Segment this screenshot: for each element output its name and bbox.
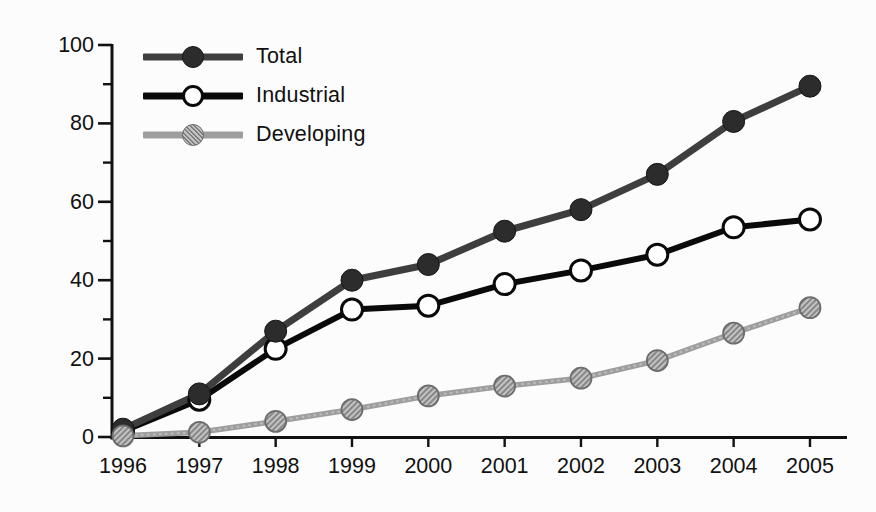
x-tick-label: 1998 [252, 454, 300, 478]
legend-item-developing: Developing [143, 115, 366, 154]
point-developing-1999 [341, 399, 362, 420]
point-industrial-2003 [647, 244, 668, 265]
point-industrial-2005 [799, 209, 820, 230]
point-industrial-2004 [723, 217, 744, 238]
legend-marker-industrial-icon [143, 83, 243, 109]
point-total-1999 [341, 269, 363, 291]
point-total-2005 [799, 75, 821, 97]
x-tick-label: 2004 [710, 454, 758, 478]
point-industrial-2002 [570, 260, 591, 281]
x-tick-label: 2005 [786, 454, 834, 478]
legend-label-developing: Developing [256, 122, 366, 147]
line-chart: 0204060801001996199719981999200020012002… [0, 0, 876, 512]
point-total-2000 [417, 254, 439, 276]
point-developing-1996 [113, 425, 134, 446]
point-total-2001 [494, 220, 516, 242]
point-total-1998 [265, 320, 287, 342]
point-industrial-1999 [341, 299, 362, 320]
legend-marker-developing-icon [143, 122, 243, 148]
point-developing-2001 [494, 376, 515, 397]
point-industrial-2000 [418, 295, 439, 316]
point-developing-2002 [570, 368, 591, 389]
legend-label-total: Total [256, 44, 302, 69]
point-developing-2004 [723, 323, 744, 344]
y-tick-label: 80 [70, 111, 94, 135]
y-tick-label: 100 [58, 33, 94, 57]
point-developing-2005 [799, 297, 820, 318]
point-total-2003 [646, 163, 668, 185]
x-tick-label: 2000 [404, 454, 452, 478]
point-developing-2000 [418, 385, 439, 406]
y-tick-label: 60 [70, 190, 94, 214]
x-tick-label: 1996 [99, 454, 147, 478]
x-tick-label: 2002 [557, 454, 605, 478]
point-total-1997 [188, 383, 210, 405]
point-total-2002 [570, 199, 592, 221]
y-tick-label: 0 [82, 425, 94, 449]
y-tick-label: 40 [70, 268, 94, 292]
chart-figure: 0204060801001996199719981999200020012002… [0, 0, 876, 512]
legend-marker-total-icon [143, 44, 243, 70]
point-developing-1998 [265, 411, 286, 432]
x-tick-label: 1997 [175, 454, 223, 478]
chart-legend: Total Industrial Developing [143, 37, 366, 154]
x-tick-label: 2001 [481, 454, 529, 478]
y-tick-label: 20 [70, 347, 94, 371]
x-tick-label: 2003 [633, 454, 681, 478]
legend-label-industrial: Industrial [256, 83, 345, 108]
point-industrial-2001 [494, 274, 515, 295]
legend-item-total: Total [143, 37, 366, 76]
legend-item-industrial: Industrial [143, 76, 366, 115]
point-developing-1997 [189, 422, 210, 443]
point-total-2004 [723, 110, 745, 132]
x-tick-label: 1999 [328, 454, 376, 478]
point-developing-2003 [647, 350, 668, 371]
